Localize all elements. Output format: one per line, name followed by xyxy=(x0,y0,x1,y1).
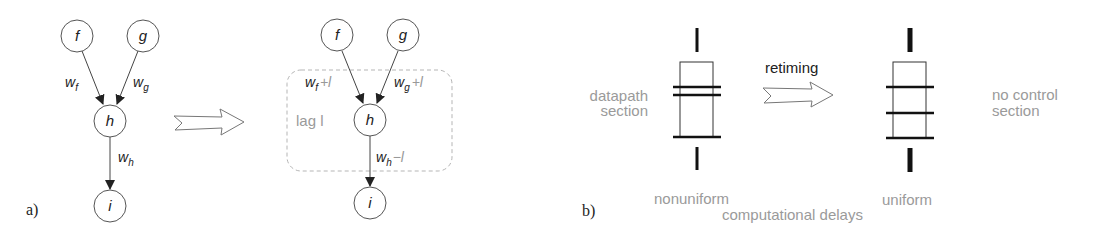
weight-label-wf: wf xyxy=(65,74,79,93)
retiming-diagram: f g h i wf wg wh a) lag l xyxy=(0,0,1099,233)
node-i: i xyxy=(354,187,386,219)
node-h-label: h xyxy=(366,111,374,128)
node-g: g xyxy=(127,20,159,52)
node-i: i xyxy=(94,190,126,222)
nonuniform-pipeline-component xyxy=(673,28,721,170)
weight-label-wg: wg xyxy=(133,74,149,93)
node-h: h xyxy=(94,105,126,137)
uniform-pipeline-component xyxy=(886,28,934,172)
weight-label-wh-minus-l: wh−l xyxy=(376,149,405,168)
panel-a-label: a) xyxy=(26,201,38,219)
hollow-arrow-icon xyxy=(763,82,833,107)
node-h-label: h xyxy=(106,112,114,129)
node-f: f xyxy=(321,19,353,51)
panel-a-after-graph: lag l f g h i wf+l wg+l wh−l xyxy=(287,19,452,219)
retiming-label: retiming xyxy=(765,59,818,76)
node-g-label: g xyxy=(399,26,408,43)
weight-label-wg-plus-l: wg+l xyxy=(394,74,424,93)
weight-label-wh: wh xyxy=(118,149,134,168)
nonuniform-caption: nonuniform xyxy=(654,190,729,207)
weight-label-wf-plus-l: wf+l xyxy=(305,74,332,93)
no-control-section-label-line1: no control xyxy=(992,86,1058,103)
edge-f-h xyxy=(82,51,103,104)
node-h: h xyxy=(354,104,386,136)
node-g-label: g xyxy=(139,27,148,44)
lag-label: lag l xyxy=(296,112,324,129)
edge-f-h-retimed xyxy=(342,51,363,103)
panel-a-before-graph: f g h i wf wg wh xyxy=(61,20,159,222)
panel-b-label: b) xyxy=(582,202,595,220)
computational-delays-caption: computational delays xyxy=(722,206,863,223)
node-f: f xyxy=(61,20,93,52)
datapath-section-label-line2: section xyxy=(600,102,648,119)
hollow-arrow-icon xyxy=(174,109,244,135)
no-control-section-label-line2: section xyxy=(992,102,1040,119)
node-g: g xyxy=(387,19,419,51)
uniform-caption: uniform xyxy=(882,191,932,208)
